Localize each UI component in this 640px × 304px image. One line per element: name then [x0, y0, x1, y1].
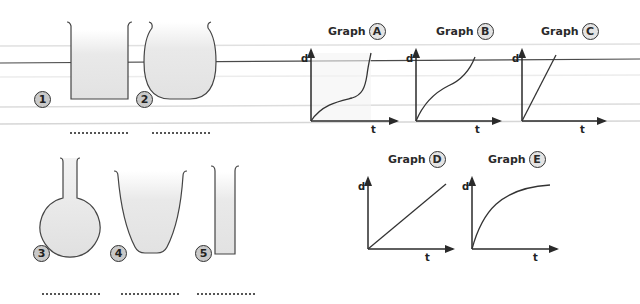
container-5-badge: 5	[195, 245, 212, 262]
graph-b-title: GraphB	[436, 23, 494, 40]
graph-e-title: GraphE	[488, 151, 546, 168]
graph-e-x-label: t	[533, 252, 538, 263]
graph-b-x-label: t	[475, 124, 480, 135]
graph-c-y-label: d	[512, 53, 519, 64]
graph-d-letter-badge: D	[429, 151, 446, 168]
container-1-badge: 1	[34, 91, 51, 108]
graph-d-x-label: t	[425, 252, 430, 263]
answer-blank-1[interactable]	[70, 130, 128, 134]
answer-blank-5[interactable]	[197, 291, 255, 295]
container-3-flask	[40, 158, 100, 257]
answer-blank-4[interactable]	[121, 291, 179, 295]
graph-c-x-label: t	[580, 124, 585, 135]
graph-c-letter-badge: C	[582, 23, 599, 40]
answer-blank-2[interactable]	[152, 130, 210, 134]
container-4-bowl	[114, 171, 187, 253]
container-5-cylinder	[211, 166, 239, 254]
container-3-badge: 3	[33, 245, 50, 262]
graph-c-title: GraphC	[541, 23, 599, 40]
container-1-beaker	[67, 22, 132, 99]
graph-a-title: GraphA	[328, 23, 386, 40]
graph-e-y-label: d	[462, 181, 469, 192]
graph-d-title: GraphD	[388, 151, 446, 168]
graph-e-letter-badge: E	[529, 151, 546, 168]
graph-e-plot	[472, 178, 557, 249]
graph-a-x-label: t	[371, 124, 376, 135]
container-4-badge: 4	[110, 245, 127, 262]
worksheet: 1 2 3 4 5 GraphA GraphB GraphC GraphD Gr…	[0, 0, 640, 304]
graph-a-letter-badge: A	[369, 23, 386, 40]
container-2-badge: 2	[136, 91, 153, 108]
container-2-vase	[144, 22, 216, 99]
graph-b-y-label: d	[406, 53, 413, 64]
graph-a-y-label: d	[301, 53, 308, 64]
graph-d-plot	[368, 178, 453, 249]
graph-d-y-label: d	[358, 181, 365, 192]
graph-b-letter-badge: B	[477, 23, 494, 40]
graph-c-plot	[522, 50, 605, 121]
answer-blank-3[interactable]	[42, 291, 100, 295]
